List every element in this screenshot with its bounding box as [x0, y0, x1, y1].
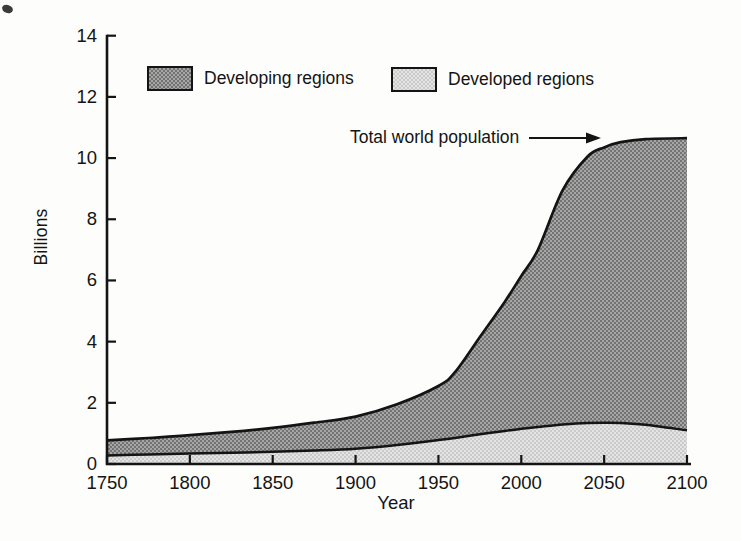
chart-canvas — [0, 0, 741, 541]
developing-regions-area — [107, 138, 687, 464]
world-population-growth-chart: Billions Year Developing regions Develop… — [0, 0, 741, 541]
